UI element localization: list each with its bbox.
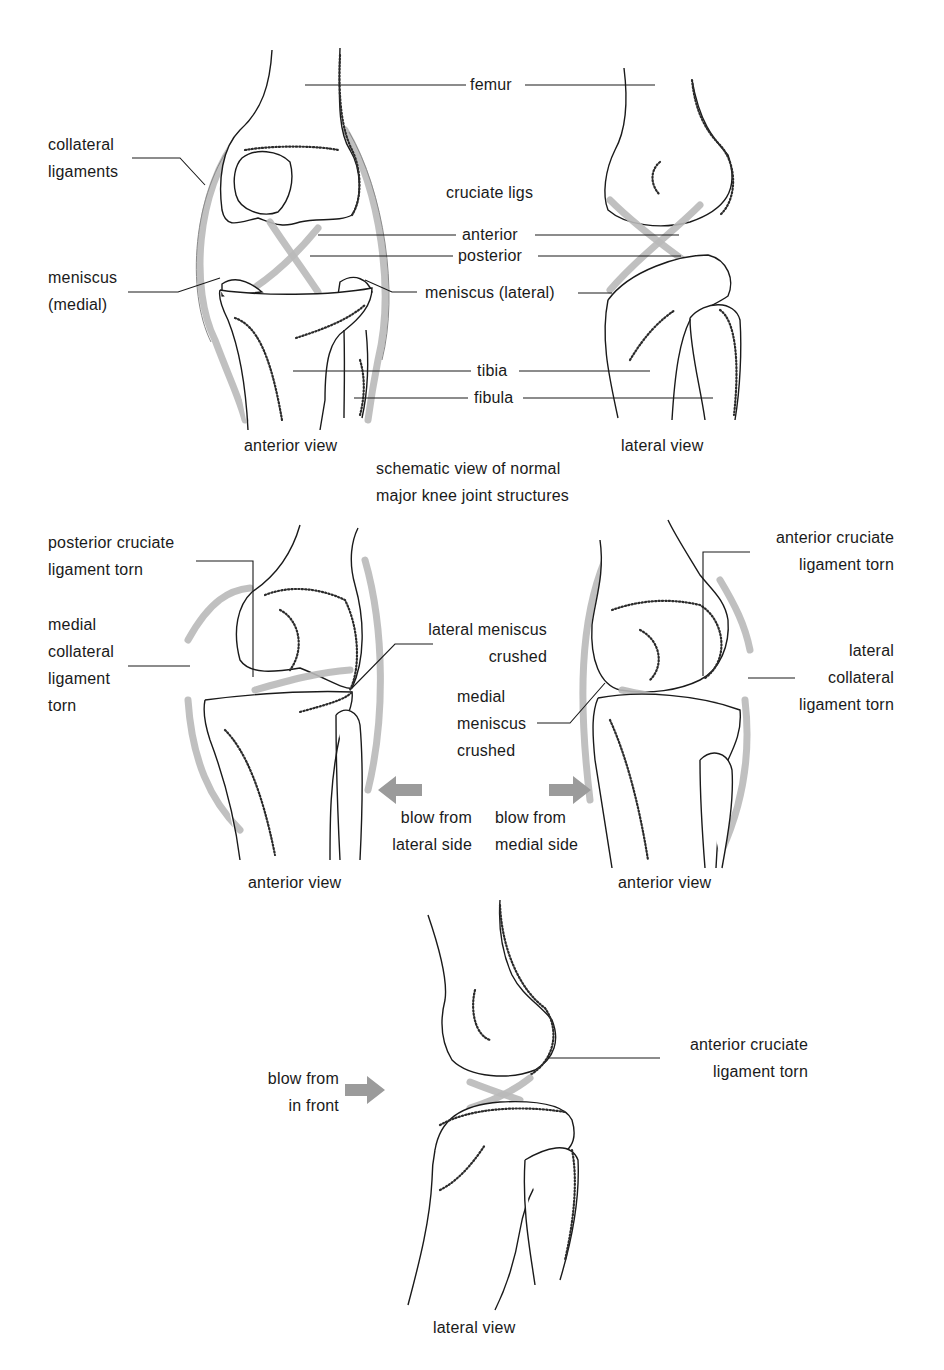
injured-knee-front-blow-drawing [408, 900, 578, 1310]
caption-line-2: major knee joint structures [376, 482, 569, 509]
label-tibia: tibia [477, 357, 507, 384]
caption-line-1: schematic view of normal [376, 455, 560, 482]
view-label-anterior-mid-left: anterior view [248, 869, 341, 896]
view-label-lateral-bottom: lateral view [433, 1314, 515, 1341]
label-cruciate-ligs: cruciate ligs [446, 179, 533, 206]
label-blow-lateral-side: blow from lateral side [370, 804, 472, 858]
label-posterior: posterior [458, 242, 522, 269]
label-meniscus-lateral: meniscus (lateral) [425, 279, 555, 306]
label-collateral-ligaments: collateral ligaments [48, 131, 118, 185]
arrow-left-icon [378, 776, 422, 804]
label-meniscus-medial: meniscus (medial) [48, 264, 117, 318]
view-label-anterior-mid-right: anterior view [618, 869, 711, 896]
label-blow-medial-side: blow from medial side [495, 804, 578, 858]
label-lcl-torn: lateral collateral ligament torn [770, 637, 894, 718]
normal-knee-anterior-drawing [196, 48, 389, 430]
arrow-right-icon [345, 1076, 385, 1104]
label-pcl-torn: posterior cruciate ligament torn [48, 529, 174, 583]
normal-knee-lateral-drawing [605, 68, 741, 420]
injured-knee-medial-blow-drawing [583, 520, 750, 868]
view-label-anterior-top: anterior view [244, 432, 337, 459]
label-fibula: fibula [474, 384, 513, 411]
label-blow-in-front: blow from in front [240, 1065, 339, 1119]
label-medial-meniscus-crushed: medial meniscus crushed [457, 683, 526, 764]
label-acl-torn-mid: anterior cruciate ligament torn [740, 524, 894, 578]
view-label-lateral-top: lateral view [621, 432, 703, 459]
injured-knee-lateral-blow-drawing [188, 525, 380, 860]
label-acl-torn-bottom: anterior cruciate ligament torn [660, 1031, 808, 1085]
label-mcl-torn: medial collateral ligament torn [48, 611, 114, 719]
label-femur: femur [470, 71, 512, 98]
label-lateral-meniscus-crushed: lateral meniscus crushed [400, 616, 547, 670]
